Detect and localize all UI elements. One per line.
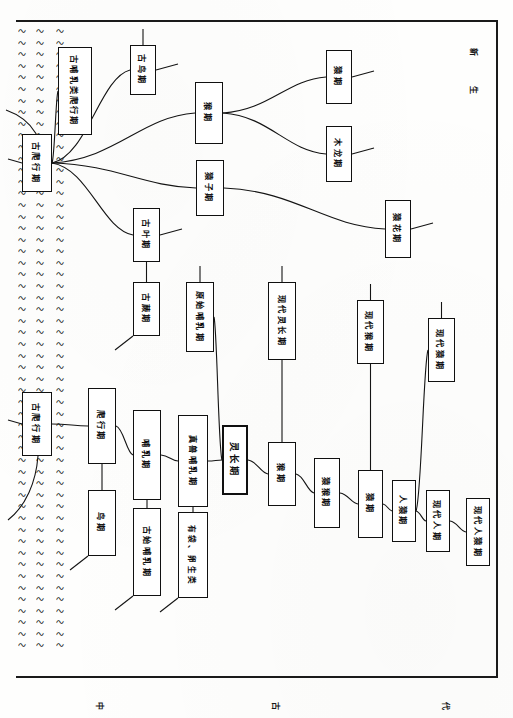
stub-tick <box>70 556 88 570</box>
connector-line <box>416 511 426 521</box>
diagram-node: 猿花期 <box>385 200 411 258</box>
diagram-node-label: 有袋、卵生类 <box>188 524 199 585</box>
diagram-node-label: 现代猴期 <box>365 311 377 353</box>
diagram-node: 猿子期 <box>196 160 224 216</box>
diagram-node-label: 猿期 <box>364 493 376 514</box>
diagram-node-label: 猴期 <box>203 102 215 123</box>
diagram-node-label: 猿子期 <box>204 172 216 204</box>
diagram-node-label: 现代灵长期 <box>276 295 288 348</box>
margin-sweep-line <box>8 456 38 520</box>
diagram-node: 现代人期 <box>426 490 450 552</box>
connector-line <box>224 188 385 229</box>
margin-mark-top-right-lower: 生 <box>470 84 478 95</box>
diagram-node: 现代猿期 <box>428 318 455 382</box>
diagram-node: 古哺乳类爬行期 <box>58 47 92 135</box>
diagram-node-label: 真兽哺乳期 <box>187 435 199 488</box>
stub-tick <box>160 598 178 612</box>
diagram-node-label: 古爬行期 <box>31 142 43 184</box>
diagram-node-label: 古叶期 <box>141 219 153 251</box>
diagram-node: 猿期 <box>358 470 383 538</box>
diagram-node: 灵长期 <box>222 425 248 495</box>
diagram-node: 木龙期 <box>326 126 352 182</box>
connector-line <box>450 521 466 532</box>
root-entry-line <box>8 420 22 424</box>
diagram-node: 古鸟期 <box>130 45 156 95</box>
margin-mark-bottom-mid: 古 <box>272 700 280 711</box>
connector-line <box>214 317 222 460</box>
margin-mark-bottom-left: 中 <box>96 700 104 711</box>
diagram-node-label: 猿花期 <box>392 213 404 245</box>
diagram-node: 原始哺乳期 <box>186 282 214 352</box>
diagram-node-label: 灵长期 <box>228 442 242 478</box>
connector-line <box>116 426 133 455</box>
connector-line <box>296 474 314 493</box>
diagram-node: 哺乳期 <box>133 410 161 500</box>
diagram-node-label: 现代人猿期 <box>472 506 484 559</box>
diagram-node: 猴期 <box>268 442 296 506</box>
diagram-node-label: 猴期 <box>276 463 288 484</box>
stub-tick <box>115 336 133 350</box>
stub-tick <box>115 596 133 610</box>
diagram-node-label: 古鸟期 <box>137 54 149 86</box>
diagram-node: 古爬行期 <box>22 134 52 192</box>
diagram-node: 真兽哺乳期 <box>178 415 208 507</box>
diagram-node-label: 现代猿期 <box>436 329 448 371</box>
diagram-node-label: 古始哺乳期 <box>141 526 153 579</box>
margin-mark-bottom-right: 代 <box>442 700 450 711</box>
diagram-node: 猿猴期 <box>314 458 340 528</box>
stub-tick <box>352 148 374 154</box>
connector-line <box>208 460 222 461</box>
diagram-node: 爬行期 <box>88 388 116 464</box>
diagram-node: 古蕨期 <box>133 282 160 336</box>
stub-tick <box>160 229 182 235</box>
connector-line <box>248 460 268 474</box>
diagram-node: 古叶期 <box>133 208 160 262</box>
connector-line <box>383 504 392 511</box>
diagram-node-label: 现代人期 <box>432 500 444 542</box>
diagram-node: 猴期 <box>195 82 223 144</box>
diagram-node-label: 古蕨期 <box>141 293 153 325</box>
diagram-node: 现代灵长期 <box>268 282 296 360</box>
connector-line <box>223 113 326 154</box>
diagram-node-label: 人猿期 <box>398 495 410 527</box>
diagram-node-label: 木龙期 <box>333 138 345 170</box>
diagram-node-label: 猿猴期 <box>321 477 333 509</box>
stub-tick <box>352 71 374 77</box>
connector-line <box>52 163 196 188</box>
connector-line <box>416 350 428 511</box>
stub-tick <box>156 64 178 70</box>
diagram-node: 古始哺乳期 <box>133 508 161 596</box>
diagram-node-label: 爬行期 <box>96 410 108 442</box>
connector-line <box>52 424 88 426</box>
diagram-node: 现代猴期 <box>357 300 384 364</box>
diagram-node: 鸟期 <box>88 490 116 556</box>
diagram-node-label: 古爬行期 <box>31 403 43 445</box>
diagram-node-label: 鸟期 <box>96 512 108 533</box>
diagram-node: 古爬行期 <box>22 392 52 456</box>
diagram-node: 现代人猿期 <box>466 498 490 566</box>
diagram-node: 猿期 <box>326 50 352 104</box>
diagram-node-label: 原始哺乳期 <box>194 291 206 344</box>
diagram-node: 有袋、卵生类 <box>178 512 208 598</box>
connector-line <box>340 493 358 504</box>
margin-mark-top-right-upper: 新 <box>470 46 478 57</box>
connector-line <box>161 455 178 461</box>
diagram-node-label: 古哺乳类爬行期 <box>69 55 81 126</box>
stub-tick <box>411 223 433 229</box>
root-entry-line <box>8 159 22 163</box>
diagram-node-label: 猿期 <box>333 66 345 87</box>
connector-line <box>223 77 326 113</box>
diagram-node: 人猿期 <box>392 480 416 542</box>
scanned-page: 〜〜〜〜〜〜〜〜〜〜〜〜〜〜〜〜〜〜〜〜〜〜〜〜〜〜〜〜〜〜〜〜〜〜〜〜〜〜〜〜… <box>0 0 513 718</box>
diagram-node-label: 哺乳期 <box>141 439 153 471</box>
